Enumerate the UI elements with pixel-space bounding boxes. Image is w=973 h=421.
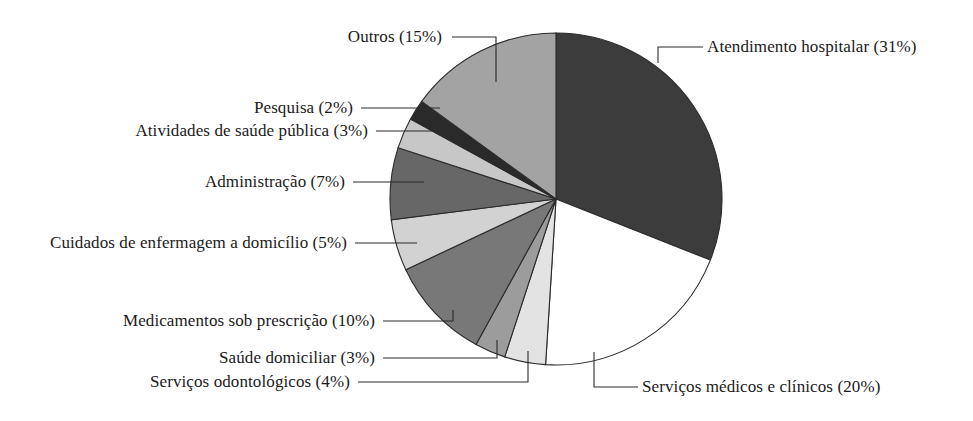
pie-label-administracao: Administração (7%) — [0, 172, 353, 191]
pie-label-pesquisa: Pesquisa (2%) — [0, 98, 361, 117]
pie-label-administracao-text: Administração (7%) — [205, 172, 345, 191]
pie-chart: Outros (15%) Atendimento hospitalar (31%… — [0, 0, 973, 421]
pie-label-servicos-odontologicos-text: Serviços odontológicos (4%) — [150, 372, 350, 391]
pie-label-outros-text: Outros (15%) — [348, 27, 442, 46]
pie-label-cuidados-enfermagem: Cuidados de enfermagem a domicílio (5%) — [0, 233, 355, 252]
pie-label-medicamentos: Medicamentos sob prescrição (10%) — [0, 311, 383, 330]
pie-label-cuidados-enfermagem-text: Cuidados de enfermagem a domicílio (5%) — [50, 233, 347, 252]
pie-label-atendimento-hospitalar-text: Atendimento hospitalar (31%) — [707, 37, 917, 56]
leader-line-atendimento-hospitalar — [658, 47, 703, 63]
pie-label-outros: Outros (15%) — [0, 27, 452, 46]
pie-label-servicos-medicos: Serviços médicos e clínicos (20%) — [642, 377, 973, 396]
pie-label-atividades-saude-publica-text: Atividades de saúde pública (3%) — [135, 121, 368, 140]
pie-label-atividades-saude-publica: Atividades de saúde pública (3%) — [0, 121, 376, 140]
pie-label-servicos-odontologicos: Serviços odontológicos (4%) — [0, 372, 358, 391]
pie-label-servicos-medicos-text: Serviços médicos e clínicos (20%) — [642, 377, 880, 396]
pie-label-saude-domiciliar-text: Saúde domiciliar (3%) — [219, 348, 375, 367]
pie-label-pesquisa-text: Pesquisa (2%) — [254, 98, 353, 117]
pie-label-saude-domiciliar: Saúde domiciliar (3%) — [0, 348, 383, 367]
pie-label-atendimento-hospitalar: Atendimento hospitalar (31%) — [707, 37, 973, 56]
pie-label-medicamentos-text: Medicamentos sob prescrição (10%) — [123, 311, 375, 330]
pie-slices — [390, 33, 722, 365]
